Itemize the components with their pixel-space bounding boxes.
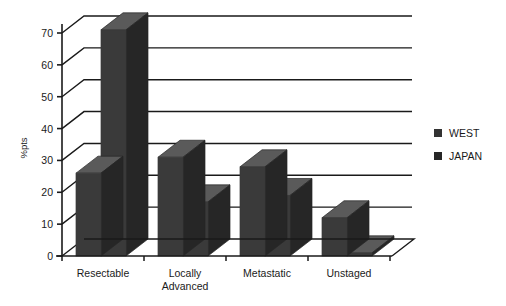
- bar-3d-side: [101, 156, 123, 256]
- bar-west-resectable: [76, 173, 101, 256]
- bar-3d-side: [265, 150, 287, 256]
- y-tick-label: 70: [41, 27, 53, 39]
- legend-label-west: WEST: [449, 127, 480, 139]
- y-tick-label: 40: [41, 123, 53, 135]
- category-label: Unstaged: [327, 267, 372, 279]
- legend-swatch: [434, 129, 442, 137]
- chart-background: [0, 0, 506, 306]
- category-label: Metastatic: [243, 267, 291, 279]
- bar-west-unstaged: [322, 218, 347, 256]
- legend-label-japan: JAPAN: [449, 150, 482, 162]
- y-tick-label: 30: [41, 154, 53, 166]
- y-tick-label: 60: [41, 59, 53, 71]
- y-tick-label: 50: [41, 91, 53, 103]
- y-tick-label: 10: [41, 218, 53, 230]
- bar-west-metastatic: [240, 167, 265, 256]
- y-tick-label: 0: [47, 250, 53, 262]
- category-label: Advanced: [162, 280, 209, 292]
- chart-canvas: 010203040506070 ResectableLocallyAdvance…: [0, 0, 506, 306]
- bar-3d-side: [126, 13, 148, 256]
- y-tick-label: 20: [41, 186, 53, 198]
- category-label: Locally: [169, 267, 202, 279]
- bar-chart: 010203040506070 ResectableLocallyAdvance…: [0, 0, 506, 306]
- category-label: Resectable: [77, 267, 130, 279]
- y-axis-title: %pts: [18, 137, 29, 158]
- legend-swatch: [434, 152, 442, 160]
- bar-west-locally-advanced: [158, 157, 183, 256]
